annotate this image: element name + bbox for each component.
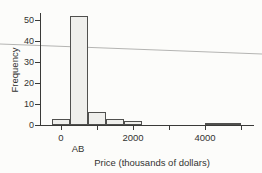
- y-tick-label: 40: [16, 36, 34, 46]
- x-tick-label: 2000: [113, 133, 153, 143]
- histogram-figure: Frequency Price (thousands of dollars) A…: [0, 0, 262, 173]
- y-tick-label: 20: [16, 78, 34, 88]
- y-tick-label: 10: [16, 99, 34, 109]
- x-tick-label: 0: [41, 133, 81, 143]
- y-tick-label: 50: [16, 15, 34, 25]
- y-tick-label: 30: [16, 57, 34, 67]
- x-axis-title: Price (thousands of dollars): [94, 157, 210, 168]
- text-layer: Frequency Price (thousands of dollars) A…: [0, 0, 262, 173]
- annotation-ab: AB: [72, 143, 85, 154]
- y-tick-label: 0: [16, 120, 34, 130]
- x-tick-label: 4000: [185, 133, 225, 143]
